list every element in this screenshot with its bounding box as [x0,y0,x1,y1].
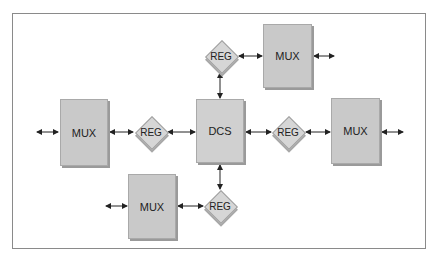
dcs-label: DCS [208,125,231,137]
mux-right-label: MUX [343,125,367,137]
reg-left-diamond: REG [135,116,167,148]
mux-right-block: MUX [331,98,380,164]
reg-right-diamond: REG [272,116,304,148]
reg-left-label: REG [135,116,167,148]
mux-top-label: MUX [275,50,299,62]
reg-top-label: REG [205,40,237,72]
mux-bottom-block: MUX [128,174,176,239]
reg-bottom-label: REG [204,190,236,222]
reg-bottom-diamond: REG [204,190,236,222]
dcs-block: DCS [196,99,244,163]
mux-top-block: MUX [263,24,312,88]
reg-right-label: REG [272,116,304,148]
mux-left-block: MUX [60,99,108,166]
reg-top-diamond: REG [205,40,237,72]
mux-left-label: MUX [72,127,96,139]
mux-bottom-label: MUX [140,201,164,213]
